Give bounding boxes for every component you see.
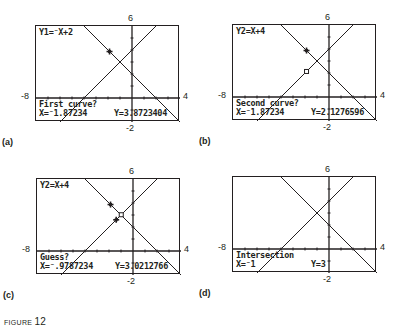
x-readout: X=⁻.9787234 [40,262,93,271]
ymin-label: -2 [323,122,331,132]
calculator-screen-c: Y2=X+4Guess?X=⁻.9787234Y=3.0212766 [36,178,180,274]
y-readout: Y=3.8723404 [114,109,167,118]
y-readout: Y=3 [311,260,325,269]
y-readout: Y=2.1276596 [311,108,364,117]
x-readout: X=⁻1.87234 [236,108,284,117]
figure-caption-prefix: FIGURE [4,319,32,326]
figure-caption: FIGURE 12 [4,316,46,327]
xmin-label: -8 [218,90,226,100]
ymax-label: 6 [128,13,133,23]
cursor-cross-icon [115,218,118,221]
xmax-label: 4 [183,91,188,101]
panel-label-d: (d) [199,288,211,298]
ymin-label: -2 [323,274,331,284]
xmax-label: 4 [380,90,385,100]
panel-label-a: (a) [2,137,13,147]
ymax-label: 6 [325,164,330,174]
ymin-label: -2 [127,276,135,286]
calculator-screen-d: IntersectionX=⁻1Y=3 [232,176,376,272]
xmin-label: -8 [22,244,30,254]
x-readout: X=⁻1 [236,260,255,269]
xmin-label: -8 [21,91,29,101]
equation-label: Y2=X+4 [40,181,69,190]
figure-caption-number: 12 [35,316,47,327]
xmax-label: 4 [184,244,189,254]
x-readout: X=⁻1.87234 [39,109,87,118]
equation-label: Y2=X+4 [236,27,265,36]
xmin-label: -8 [218,242,226,252]
equation-label: Y1=⁻X+2 [39,28,73,37]
ymax-label: 6 [129,166,134,176]
panel-label-c: (c) [3,290,14,300]
ymin-label: -2 [126,123,134,133]
cursor-box-icon [305,69,309,73]
calculator-screen-b: Y2=X+4Second curve?X=⁻1.87234Y=2.1276596 [232,24,376,120]
panel-label-b: (b) [199,136,211,146]
cursor-cross-icon [305,49,308,52]
calculator-screen-a: Y1=⁻X+2First curve?X=⁻1.87234Y=3.8723404 [35,25,179,121]
cursor-cross-icon [108,50,111,53]
y-readout: Y=3.0212766 [115,262,168,271]
cursor-box-icon [119,213,123,217]
ymax-label: 6 [325,12,330,22]
cursor-cross-icon [109,203,112,206]
xmax-label: 4 [380,242,385,252]
